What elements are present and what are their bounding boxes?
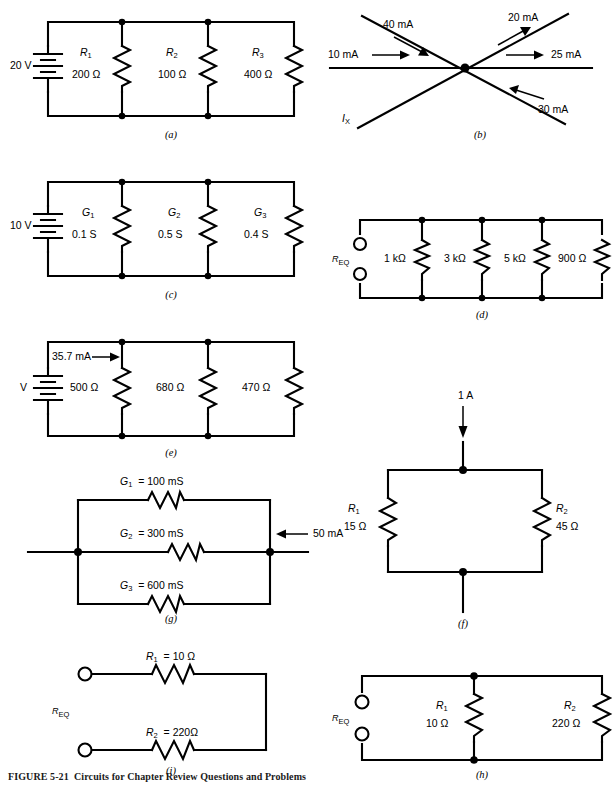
resistor-r1-value: 10 Ω [426, 717, 449, 729]
resistor-r2-value: 45 Ω [556, 520, 579, 532]
figure-caption-number: FIGURE 5-21 [8, 771, 69, 782]
junction-node [119, 179, 126, 186]
conductance-g2-value: 0.5 S [158, 228, 183, 240]
resistor-1k [415, 220, 429, 298]
resistor-r1-label: R1 = 10 Ω [146, 650, 195, 664]
current-label-40ma: 40 mA [383, 18, 413, 30]
junction-node [479, 295, 486, 302]
junction-node [539, 295, 546, 302]
resistor-900 [595, 240, 609, 280]
current-label-20ma: 20 mA [508, 11, 538, 23]
conductance-g3 [78, 596, 270, 612]
junction-node-right [266, 548, 274, 556]
current-arrow-40ma [394, 37, 429, 56]
panel-tag-g: (g) [165, 613, 178, 625]
req-terminal-label: REQ [52, 706, 70, 719]
resistor-r3-name: R3 [252, 46, 264, 60]
resistor-r2 [92, 741, 266, 759]
current-label-25ma: 25 mA [551, 48, 581, 60]
junction-node [461, 64, 470, 73]
terminal-top [354, 238, 366, 250]
circuit-panel-h: REQ R1 10 Ω R2 220 Ω (h) [330, 650, 612, 785]
resistor-r2 [200, 22, 216, 116]
circuit-panel-b: 40 mA 20 mA 10 mA 25 mA [320, 6, 610, 151]
current-arrow-10ma [372, 51, 410, 60]
source-voltage-label: 10 V [10, 219, 32, 231]
circuit-panel-d: REQ 1 kΩ 3 kΩ 5 kΩ [330, 186, 612, 326]
resistor-900-value: 900 Ω [558, 252, 586, 264]
junction-node [479, 217, 486, 224]
resistor-680 [200, 342, 216, 436]
panel-tag-d: (d) [476, 309, 489, 321]
junction-node [119, 113, 126, 120]
panel-tag-e: (e) [165, 447, 177, 459]
resistor-r1-name: R1 [436, 699, 448, 713]
unknown-current-label-ix: IX [342, 112, 350, 126]
resistor-r2 [534, 470, 550, 572]
current-label-1a: 1 A [458, 389, 473, 401]
conductance-g1 [114, 182, 130, 276]
current-arrow-35-7ma [92, 353, 120, 362]
terminal-bottom [354, 268, 366, 280]
resistor-5k [535, 220, 549, 298]
conductance-g3-label: G3 = 600 mS [120, 579, 183, 593]
resistor-r1 [466, 676, 482, 760]
junction-node [119, 19, 126, 26]
conductance-g1-value: 0.1 S [72, 228, 97, 240]
resistor-r1-value: 200 Ω [72, 68, 100, 80]
resistor-680-value: 680 Ω [156, 381, 184, 393]
conductance-g3-name: G3 [254, 206, 266, 220]
resistor-r2-value: 100 Ω [158, 68, 186, 80]
junction-node [205, 179, 212, 186]
resistor-470-value: 470 Ω [242, 381, 270, 393]
circuit-panel-f: 1 A R1 15 Ω [330, 386, 612, 636]
resistor-3k-value: 3 kΩ [444, 252, 466, 264]
voltage-source-symbol [34, 206, 62, 252]
junction-node [119, 339, 126, 346]
resistor-r2-value: 220 Ω [552, 717, 580, 729]
current-label-10ma: 10 mA [328, 48, 358, 60]
source-voltage-label: V [20, 381, 27, 393]
terminal-top [79, 668, 92, 681]
current-label-30ma: 30 mA [538, 103, 568, 115]
conductance-g2 [200, 182, 216, 276]
resistor-r3 [286, 46, 302, 92]
resistor-r1-name: R1 [80, 46, 92, 60]
circuit-panel-g: G1 = 100 mS G2 = 300 mS G3 = 600 mS 50 m… [8, 470, 338, 630]
conductance-g2-name: G2 [168, 206, 180, 220]
resistor-r3-value: 400 Ω [244, 68, 272, 80]
junction-node [470, 672, 478, 680]
conductance-g2-label: G2 = 300 mS [120, 527, 183, 541]
junction-node [419, 295, 426, 302]
panel-tag-c: (c) [165, 289, 177, 301]
panel-tag-h: (h) [476, 769, 489, 781]
circuit-panel-i: R1 = 10 Ω R2 = 220Ω REQ (i) [8, 654, 308, 784]
voltage-source-symbol [34, 368, 62, 414]
resistor-470 [286, 368, 302, 414]
voltage-source-symbol [34, 46, 62, 92]
panel-tag-f: (f) [458, 618, 468, 630]
conductance-g1 [78, 492, 270, 508]
resistor-500-value: 500 Ω [70, 381, 98, 393]
req-terminal-label: REQ [332, 254, 350, 267]
conductance-g1-name: G1 [82, 206, 94, 220]
resistor-5k-value: 5 kΩ [504, 252, 526, 264]
current-label-35-7ma: 35.7 mA [52, 350, 91, 362]
req-terminal-label: REQ [332, 713, 350, 726]
junction-node [205, 433, 212, 440]
conductance-g2 [168, 544, 204, 560]
junction-node [205, 113, 212, 120]
resistor-r1 [92, 665, 266, 683]
junction-node [205, 339, 212, 346]
resistor-r1 [380, 470, 396, 572]
junction-node [470, 756, 478, 764]
junction-node [119, 433, 126, 440]
panel-tag-a: (a) [165, 129, 178, 141]
terminal-top [356, 696, 369, 709]
resistor-r2-label: R2 = 220Ω [146, 726, 198, 740]
current-arrow-50ma [276, 530, 308, 539]
terminal-bottom [79, 744, 92, 757]
junction-node [539, 217, 546, 224]
resistor-r2-name: R2 [564, 699, 576, 713]
panel-tag-b: (b) [474, 129, 487, 141]
